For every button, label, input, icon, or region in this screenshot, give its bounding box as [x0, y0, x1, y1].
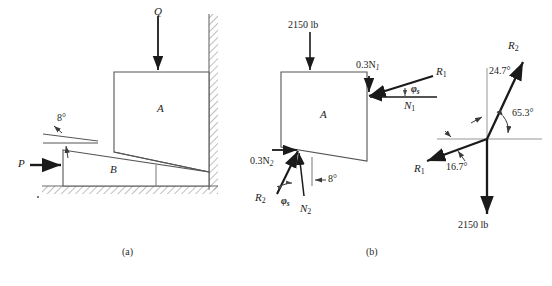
ground-hatching — [42, 186, 218, 194]
angle-24-7-label: 24.7° — [489, 66, 511, 76]
friction-n2-label: 0.3N2 — [250, 156, 273, 168]
normal-n1-label: N1 — [404, 100, 415, 113]
angle-8-label-panel-a: 8° — [57, 113, 66, 123]
angle-leader-upper — [54, 126, 62, 133]
resultant-r2-text-fbd: R — [255, 191, 262, 203]
caption-a: (a) — [122, 246, 133, 257]
angle-65-3-arc — [503, 116, 508, 133]
triangle-r2-subscript: 2 — [515, 44, 519, 53]
resultant-r2-label-fbd: R2 — [255, 192, 266, 205]
phi-s-bottom-label: φs — [281, 196, 290, 208]
resultant-r1-subscript: 1 — [443, 70, 447, 79]
triangle-r1-label: R1 — [414, 163, 425, 176]
horizontal-ref-tick — [445, 131, 451, 137]
normal-n2-label: N2 — [300, 203, 311, 216]
normal-n1-subscript: 1 — [411, 104, 415, 113]
phi-s-bottom-subscript: s — [287, 200, 290, 208]
fbd-block-a-label: A — [320, 109, 327, 120]
force-p-label: P — [18, 158, 25, 169]
friction-n1-subscript: 1 — [376, 64, 380, 72]
triangle-r2-text: R — [508, 39, 515, 51]
angle-ref-line-upper — [43, 134, 98, 141]
fbd-top-load-label: 2150 lb — [288, 20, 318, 30]
figure-container: Q A B P 8° (a) 2150 lb A 0.3N1 N1 R1 φs … — [0, 0, 552, 286]
angle-8-label-panel-b: 8° — [328, 174, 337, 184]
friction-n1-text: 0.3N — [356, 59, 376, 70]
angle-16-7-label: 16.7° — [446, 162, 468, 172]
phi-s-top-subscript: s — [417, 88, 420, 96]
triangle-r1-subscript: 1 — [421, 167, 425, 176]
triangle-weight-label: 2150 lb — [458, 220, 488, 230]
friction-n2-subscript: 2 — [270, 160, 274, 168]
caption-b: (b) — [366, 246, 378, 257]
triangle-r2-label: R2 — [508, 40, 519, 53]
block-a-label-panel-a: A — [157, 103, 164, 114]
friction-n1-label: 0.3N1 — [356, 60, 379, 72]
wall-hatching — [209, 14, 218, 190]
resultant-r1-label: R1 — [436, 66, 447, 79]
phi-s-bottom-angle-arc — [283, 183, 292, 185]
resultant-r2-arrow — [277, 151, 298, 194]
resultant-r1-arrow — [369, 76, 433, 96]
triangle-r1-vector — [427, 139, 487, 161]
resultant-r1-text: R — [436, 65, 443, 77]
block-a-outline — [114, 72, 209, 172]
angle-16-7-pointer — [458, 151, 465, 161]
angle-65-3-label: 65.3° — [512, 108, 534, 118]
triangle-r1-text: R — [414, 162, 421, 174]
friction-n2-text: 0.3N — [250, 155, 270, 166]
block-b-label-panel-a: B — [110, 164, 117, 175]
angle-24-7-pointer — [471, 117, 482, 123]
resultant-r2-subscript-fbd: 2 — [262, 196, 266, 205]
normal-n2-arrow — [299, 153, 304, 196]
force-triangle-graphics — [427, 62, 542, 214]
load-q-label: Q — [154, 6, 162, 17]
normal-n2-subscript: 2 — [307, 207, 311, 216]
stray-dot — [37, 196, 39, 198]
panel-a-graphics — [30, 14, 218, 198]
phi-s-top-label: φs — [411, 84, 420, 96]
panel-b-fbd-graphics — [272, 32, 437, 196]
figure-vector-graphics — [0, 0, 552, 286]
